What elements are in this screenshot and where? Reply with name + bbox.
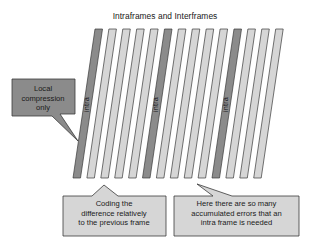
frame-stack [73, 29, 283, 178]
local-compression-callout-label: Local compression only [14, 84, 72, 113]
diagram-canvas: Intraframes and Interframes Local compre… [0, 0, 330, 244]
intra-frame-label: intra [151, 97, 160, 112]
coding-difference-callout-label: Coding the difference relatively to the … [66, 199, 162, 228]
intra-frame-label: intra [221, 97, 230, 112]
page-title: Intraframes and Interframes [0, 11, 330, 21]
accumulated-errors-callout-label: Here there are so many accumulated error… [177, 199, 296, 228]
intra-frame-label: intra [82, 97, 91, 112]
